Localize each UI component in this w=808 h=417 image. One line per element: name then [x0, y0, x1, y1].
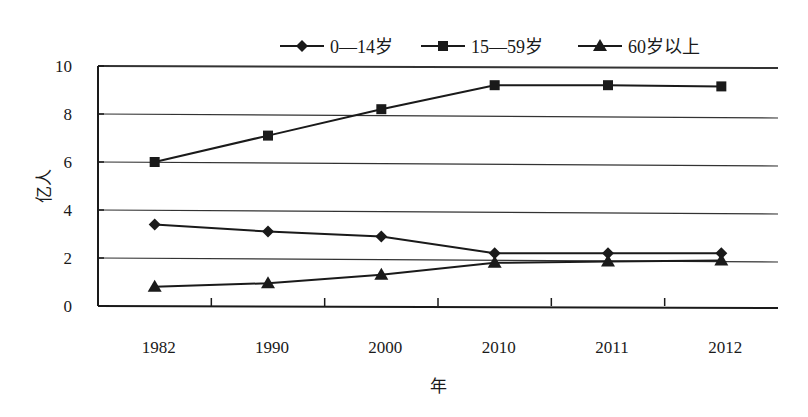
gridlines: [98, 66, 778, 306]
square-marker: [263, 131, 273, 141]
series-line: [155, 260, 722, 286]
gridline: [98, 210, 778, 214]
series-square: [150, 80, 727, 167]
legend: 0—14岁15—59岁60岁以上: [280, 37, 700, 57]
legend-label: 0—14岁: [330, 37, 393, 57]
diamond-marker: [149, 218, 161, 230]
legend-label: 60岁以上: [628, 37, 700, 57]
x-axis-title: 年: [430, 377, 447, 396]
y-tick-label: 6: [64, 153, 73, 172]
series-diamond: [149, 218, 728, 259]
diamond-marker: [296, 40, 308, 52]
square-marker: [490, 80, 500, 90]
x-tick-label: 1990: [255, 338, 289, 357]
line-chart: 0246810198219902000201020112012年亿人0—14岁1…: [0, 0, 808, 417]
square-marker: [603, 80, 613, 90]
series-line: [155, 85, 722, 162]
gridline: [98, 114, 778, 118]
triangle-marker: [714, 253, 728, 265]
square-marker: [716, 81, 726, 91]
legend-item: 60岁以上: [578, 37, 700, 57]
y-tick-label: 0: [64, 297, 73, 316]
square-marker: [150, 157, 160, 167]
square-marker: [438, 41, 448, 51]
x-tick-label: 2010: [482, 338, 516, 357]
x-tick-label: 2012: [708, 338, 742, 357]
legend-item: 0—14岁: [280, 37, 393, 57]
gridline: [98, 162, 778, 166]
y-tick-label: 4: [64, 201, 73, 220]
legend-item: 15—59岁: [421, 37, 543, 57]
legend-label: 15—59岁: [471, 37, 543, 57]
series-line: [155, 224, 722, 253]
diamond-marker: [375, 230, 387, 242]
gridline: [98, 66, 778, 68]
y-tick-label: 10: [55, 57, 72, 76]
y-tick-label: 2: [64, 249, 73, 268]
x-tick-label: 2000: [368, 338, 402, 357]
square-marker: [376, 104, 386, 114]
x-tick-label: 2011: [595, 338, 628, 357]
x-tick-label: 1982: [142, 338, 176, 357]
y-axis-title: 亿人: [35, 169, 54, 203]
diamond-marker: [262, 226, 274, 238]
x-axis: [98, 306, 778, 308]
y-tick-label: 8: [64, 105, 73, 124]
